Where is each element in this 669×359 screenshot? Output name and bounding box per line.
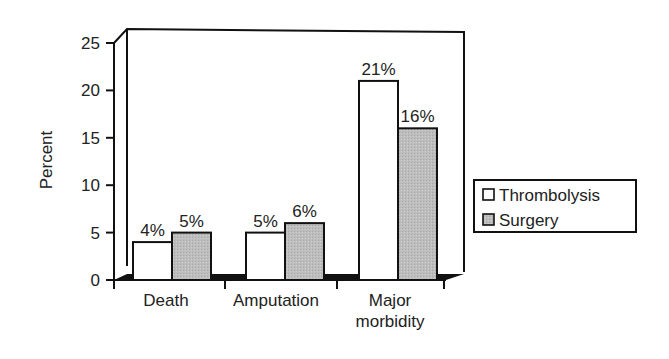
y-tick-label: 10 [81,176,100,195]
bar-surgery [172,233,211,280]
bar-thrombolysis [359,81,398,280]
y-axis-label: Percent [37,130,56,189]
x-category-label: Amputation [233,291,319,310]
x-category-label: morbidity [356,312,425,331]
legend-swatch-thrombolysis [483,189,494,200]
legend: ThrombolysisSurgery [474,180,636,232]
y-tick-label: 25 [81,34,100,53]
bar-value-label: 21% [361,60,395,79]
bar-value-label: 4% [140,221,165,240]
bar-thrombolysis [246,233,285,280]
x-axis: DeathAmputationMajormorbidity [114,280,444,331]
legend-swatch-surgery [483,214,494,225]
bar-value-label: 5% [253,212,278,231]
y-tick-label: 0 [91,271,100,290]
legend-label: Surgery [499,211,559,230]
bar-value-label: 16% [400,107,434,126]
bar-surgery [285,223,324,280]
bar-surgery [398,128,437,280]
x-category-label: Death [143,291,188,310]
bar-chart: 0510152025 4%5%5%6%21%16% DeathAmputatio… [0,0,669,359]
bar-value-label: 5% [179,212,204,231]
bar-value-label: 6% [292,202,317,221]
y-axis: 0510152025 [81,34,114,290]
bars: 4%5%5%6%21%16% [114,60,446,280]
y-tick-label: 20 [81,81,100,100]
x-category-label: Major [369,291,412,310]
y-tick-label: 5 [91,224,100,243]
bar-thrombolysis [133,242,172,280]
y-tick-label: 15 [81,129,100,148]
legend-label: Thrombolysis [499,186,600,205]
